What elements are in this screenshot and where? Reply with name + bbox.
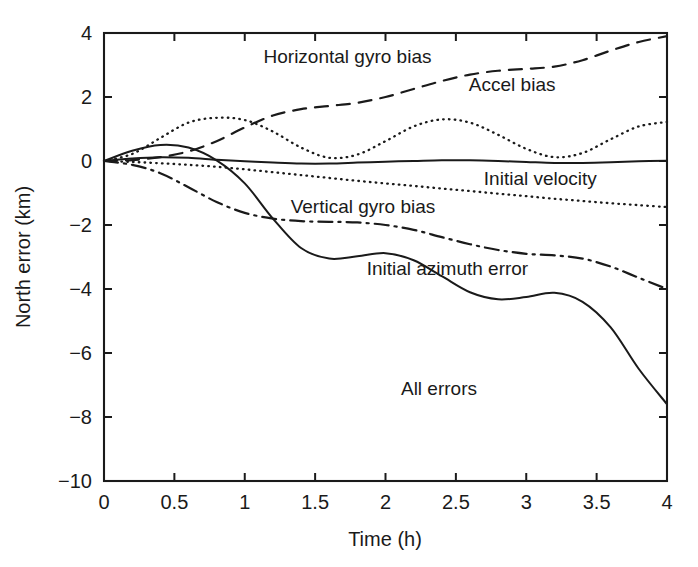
x-tick-label: 4 [661, 491, 672, 513]
series-curve [104, 118, 667, 161]
series-label: Initial velocity [484, 168, 597, 189]
series-annotations: Horizontal gyro biasAccel biasInitial ve… [264, 46, 598, 398]
x-tick-label: 1 [239, 491, 250, 513]
series-label: Accel bias [469, 74, 556, 95]
x-tick-label: 1.5 [301, 491, 329, 513]
x-axis-title: Time (h) [348, 528, 422, 550]
x-tick-label: 0 [98, 491, 109, 513]
x-tick-label: 2 [380, 491, 391, 513]
y-axis-title: North error (km) [12, 186, 34, 328]
x-tick-label: 0.5 [160, 491, 188, 513]
x-tick-labels: 00.511.522.533.54 [98, 491, 672, 513]
y-tick-label: 4 [81, 22, 92, 44]
data-series-group [104, 36, 667, 404]
y-tick-label: 2 [81, 86, 92, 108]
series-label: Vertical gyro bias [291, 196, 436, 217]
series-label: Initial azimuth error [367, 258, 529, 279]
series-label: All errors [401, 378, 477, 399]
y-tick-label: 0 [81, 150, 92, 172]
chart-figure: 00.511.522.533.54 420−2−4−6−8−10 Horizon… [0, 0, 698, 567]
y-tick-label: −8 [69, 406, 92, 428]
y-tick-labels: 420−2−4−6−8−10 [58, 22, 92, 492]
y-tick-label: −4 [69, 278, 92, 300]
y-tick-label: −6 [69, 342, 92, 364]
y-tick-label: −10 [58, 470, 92, 492]
x-tick-label: 3.5 [583, 491, 611, 513]
x-tick-label: 2.5 [442, 491, 470, 513]
series-curve [104, 157, 667, 164]
y-tick-label: −2 [69, 214, 92, 236]
series-label: Horizontal gyro bias [264, 46, 432, 67]
north-error-plot: 00.511.522.533.54 420−2−4−6−8−10 Horizon… [0, 0, 698, 567]
x-tick-label: 3 [521, 491, 532, 513]
